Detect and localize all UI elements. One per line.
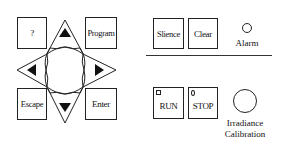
calibration-label-line2: Calibration [218,129,272,139]
stop-button[interactable]: STOP [188,87,218,119]
panel-divider [146,55,272,56]
silence-button[interactable]: Slience [153,18,184,49]
clear-button[interactable]: Clear [188,18,218,49]
stop-indicator-icon [191,90,195,96]
stop-button-label: STOP [193,101,214,111]
run-button-label: RUN [159,101,177,111]
program-button[interactable]: Program [85,17,117,49]
help-button[interactable]: ? [17,17,47,49]
run-indicator-icon [156,90,161,95]
clear-button-label: Clear [194,29,212,39]
irradiance-calibration-button[interactable] [233,89,257,113]
alarm-indicator-icon [242,23,252,33]
enter-button[interactable]: Enter [85,88,117,120]
program-button-label: Program [87,28,114,38]
escape-button-label: Escape [21,99,43,109]
run-button[interactable]: RUN [153,87,184,119]
calibration-label-line1: Irradiance [220,118,270,128]
enter-button-label: Enter [92,99,110,109]
help-button-label: ? [30,28,34,38]
escape-button[interactable]: Escape [17,88,47,120]
silence-button-label: Slience [157,29,180,39]
alarm-label: Alarm [232,38,262,48]
